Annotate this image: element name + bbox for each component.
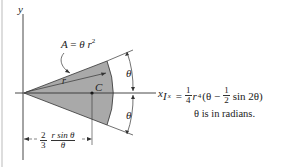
y-axis-label: y <box>18 4 23 15</box>
formula-half-den: 2 <box>224 96 229 105</box>
centroid-label: C <box>95 82 102 93</box>
dimension-arrow-left <box>24 137 29 141</box>
distance-denominator: θ <box>61 141 65 150</box>
coef-denominator: 3 <box>41 141 46 150</box>
upper-angle-label: θ <box>126 68 131 79</box>
lower-angle-label: θ <box>126 110 131 121</box>
moment-of-inertia-figure: y x A = θ r2 r C θ θ 23 r sin θθ Ix = 14… <box>0 0 291 167</box>
formula-equals: = <box>176 90 182 102</box>
moment-of-inertia-formula: Ix = 14 r4 (θ − 12 sin 2θ) <box>163 86 263 105</box>
formula-tail: sin 2θ) <box>233 90 263 102</box>
area-leader <box>61 53 70 73</box>
formula-coef-den: 4 <box>186 96 191 105</box>
radians-note: θ is in radians. <box>194 108 255 119</box>
formula-lhs: I <box>163 90 167 102</box>
formula-r: r <box>193 90 197 102</box>
formula-subscript: x <box>168 92 171 100</box>
dimension-arrow-right <box>87 137 92 141</box>
centroid-distance-label: 23 r sin θθ <box>40 131 75 150</box>
radius-label: r <box>62 76 66 86</box>
arrowhead <box>131 95 135 99</box>
arrowhead <box>131 87 135 91</box>
area-label: A = θ r2 <box>61 38 95 50</box>
formula-open: (θ − <box>202 90 220 102</box>
formula-r-exponent: 4 <box>198 92 202 100</box>
